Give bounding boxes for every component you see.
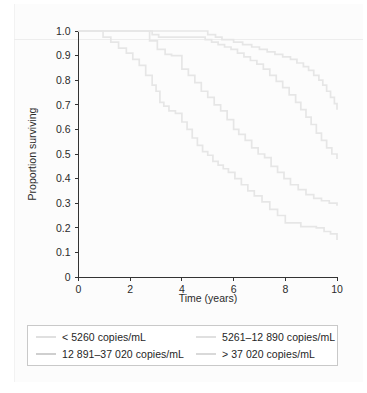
legend-item[interactable]: 5261–12 890 copies/mL <box>188 331 337 343</box>
chart-legend: < 5260 copies/mL 5261–12 890 copies/mL 1… <box>27 325 338 366</box>
x-axis-tick-label: 2 <box>127 283 133 295</box>
legend-item-label: > 37 020 copies/mL <box>222 348 315 360</box>
survival-chart: 00.10.20.30.40.50.60.70.80.91.0 0246810 … <box>0 0 367 310</box>
y-axis-tick-label: 0.2 <box>56 222 71 234</box>
y-axis-tick-label: 1.0 <box>56 25 71 37</box>
y-axis-tick-label: 0.8 <box>56 74 71 86</box>
legend-item-label: 12 891–37 020 copies/mL <box>62 348 184 360</box>
y-axis-tick-label: 0.1 <box>56 246 71 258</box>
y-axis-title: Proportion surviving <box>26 107 38 200</box>
y-axis-tick-label: 0.4 <box>56 172 71 184</box>
figure-root: 00.10.20.30.40.50.60.70.80.91.0 0246810 … <box>0 0 367 393</box>
km-curves <box>79 31 338 240</box>
x-axis-tick-label: 0 <box>76 283 82 295</box>
legend-line-swatch-icon <box>196 353 216 355</box>
legend-line-swatch-icon <box>36 353 56 355</box>
km-curve-line <box>79 31 338 206</box>
x-axis-title: Time (years) <box>179 292 238 304</box>
legend-item[interactable]: < 5260 copies/mL <box>28 331 188 343</box>
y-axis-tick-label: 0.6 <box>56 123 71 135</box>
y-axis-tick-label: 0.7 <box>56 99 71 111</box>
y-axis-tick-label: 0.3 <box>56 197 71 209</box>
x-axis-tick-label: 10 <box>331 283 343 295</box>
legend-grid: < 5260 copies/mL 5261–12 890 copies/mL 1… <box>28 326 337 365</box>
y-axis-tick-label: 0.9 <box>56 49 71 61</box>
legend-item[interactable]: 12 891–37 020 copies/mL <box>28 348 188 360</box>
legend-line-swatch-icon <box>36 336 56 338</box>
chart-canvas: 00.10.20.30.40.50.60.70.80.91.0 0246810 … <box>0 0 367 310</box>
y-axis-ticks: 00.10.20.30.40.50.60.70.80.91.0 <box>56 25 79 283</box>
legend-line-swatch-icon <box>196 336 216 338</box>
legend-item-label: < 5260 copies/mL <box>62 331 146 343</box>
legend-item-label: 5261–12 890 copies/mL <box>222 331 335 343</box>
y-axis-tick-label: 0.5 <box>56 148 71 160</box>
x-axis-tick-label: 8 <box>282 283 288 295</box>
legend-item[interactable]: > 37 020 copies/mL <box>188 348 337 360</box>
y-axis-tick-label: 0 <box>65 271 71 283</box>
